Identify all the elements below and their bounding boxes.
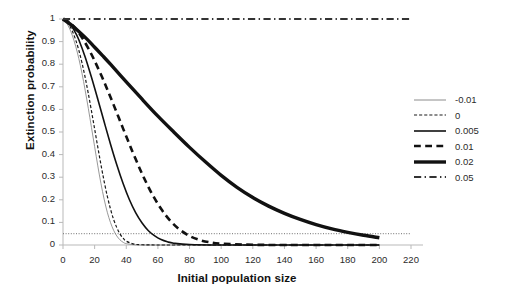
series-line-0.02 bbox=[63, 19, 379, 238]
legend-label: 0.02 bbox=[455, 156, 474, 167]
legend-label: 0 bbox=[455, 110, 460, 121]
extinction-probability-chart: Extinction probability Initial populatio… bbox=[0, 0, 519, 295]
legend-item-0.01[interactable]: 0.01 bbox=[413, 139, 479, 155]
legend-label: 0.01 bbox=[455, 141, 474, 152]
legend-item-0[interactable]: 0 bbox=[413, 108, 479, 124]
legend-item--0.01[interactable]: -0.01 bbox=[413, 92, 479, 108]
chart-legend: -0.0100.0050.010.020.05 bbox=[413, 92, 479, 185]
series-line-0 bbox=[63, 19, 379, 245]
legend-line-swatch bbox=[413, 108, 447, 122]
legend-label: -0.01 bbox=[455, 94, 477, 105]
legend-item-0.02[interactable]: 0.02 bbox=[413, 154, 479, 170]
legend-line-swatch bbox=[413, 170, 447, 184]
series-line-0.01 bbox=[63, 19, 379, 245]
legend-label: 0.05 bbox=[455, 172, 474, 183]
legend-line-swatch bbox=[413, 139, 447, 153]
legend-line-swatch bbox=[413, 93, 447, 107]
series-line-0.005 bbox=[63, 19, 379, 245]
legend-label: 0.005 bbox=[455, 125, 479, 136]
legend-line-swatch bbox=[413, 155, 447, 169]
legend-item-0.05[interactable]: 0.05 bbox=[413, 170, 479, 186]
tick-marks bbox=[59, 19, 411, 249]
legend-line-swatch bbox=[413, 124, 447, 138]
series-line--0.01 bbox=[63, 19, 379, 245]
legend-item-0.005[interactable]: 0.005 bbox=[413, 123, 479, 139]
axes bbox=[63, 19, 423, 245]
